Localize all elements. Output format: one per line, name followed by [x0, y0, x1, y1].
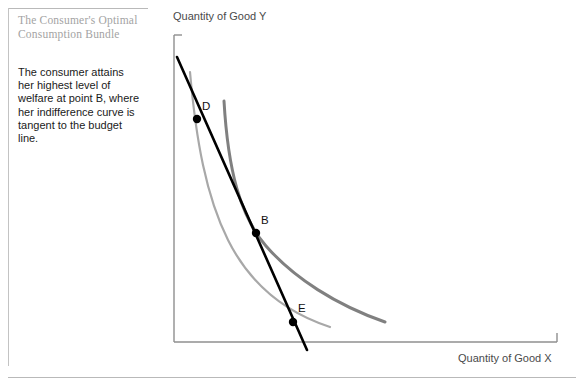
- point-e-label: E: [298, 302, 306, 314]
- figure-container: The Consumer's Optimal Consumption Bundl…: [0, 0, 584, 385]
- point-e-marker: [289, 318, 297, 326]
- point-b-marker: [252, 229, 260, 237]
- higher-indifference-curve: [224, 101, 385, 322]
- lower-indifference-curve: [190, 72, 330, 327]
- y-axis-label: Quantity of Good Y: [173, 10, 266, 22]
- point-d-marker: [193, 115, 201, 123]
- chart-plot-area: [0, 0, 584, 385]
- budget-line: [177, 57, 307, 350]
- point-b-label: B: [261, 214, 269, 226]
- point-d-label: D: [202, 100, 210, 112]
- x-axis-label: Quantity of Good X: [458, 352, 552, 364]
